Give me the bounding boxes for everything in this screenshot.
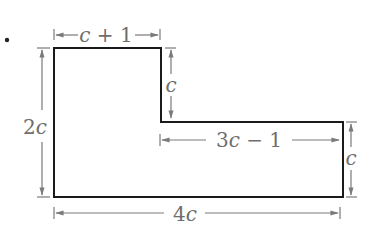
l-shape-outline <box>54 48 343 197</box>
inner-width-label: 3c − 1 <box>216 128 282 152</box>
notch-height-label: c <box>165 73 176 97</box>
top-width-label: c + 1 <box>79 23 132 47</box>
right-height-label: c <box>345 146 356 170</box>
left-height-label: 2c <box>23 115 47 139</box>
l-shape-diagram: c + 1 2c c 3c − 1 c 4c <box>0 0 375 235</box>
list-bullet <box>5 38 9 42</box>
bottom-width-label: 4c <box>173 202 197 226</box>
bottom-width-dimension <box>54 207 340 219</box>
